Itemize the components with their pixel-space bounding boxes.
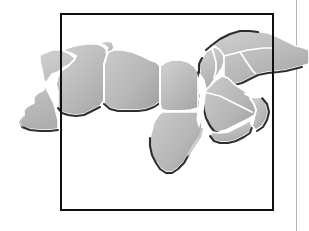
region-egypt [160, 60, 200, 111]
region-libya [104, 50, 160, 111]
map-illustration [0, 0, 309, 231]
region-sudan [150, 112, 202, 173]
figure-page: North Africa and the Middle East [0, 0, 309, 231]
